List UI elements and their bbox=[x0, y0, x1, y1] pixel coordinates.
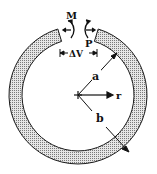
split-ring-diagram: M P ΔV a r b bbox=[0, 0, 157, 174]
moment-arrow-icon bbox=[63, 20, 74, 38]
force-label: P bbox=[85, 38, 93, 49]
radial-coordinate-label: r bbox=[116, 90, 122, 101]
inner-radius-label: a bbox=[92, 70, 99, 83]
force-arrow-icon bbox=[85, 20, 95, 38]
outer-radius-label: b bbox=[96, 112, 104, 125]
radial-coordinate-arrow-icon bbox=[78, 92, 113, 98]
moment-label: M bbox=[66, 10, 77, 21]
gap-label: ΔV bbox=[69, 49, 84, 59]
